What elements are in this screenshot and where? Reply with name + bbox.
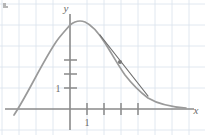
y-axis-tick-label-1: 1 bbox=[56, 83, 61, 94]
tangent-point-marker bbox=[118, 60, 122, 64]
graph-canvas: y x 1 1 bbox=[0, 0, 205, 135]
figure-background bbox=[0, 0, 205, 135]
corner-mark-tail bbox=[6, 6, 8, 8]
x-axis-tick-label-1: 1 bbox=[85, 117, 90, 128]
y-axis-label: y bbox=[63, 2, 69, 14]
corner-mark bbox=[3, 3, 6, 8]
x-axis-label: x bbox=[193, 104, 199, 116]
graph-figure: y x 1 1 bbox=[0, 0, 205, 135]
